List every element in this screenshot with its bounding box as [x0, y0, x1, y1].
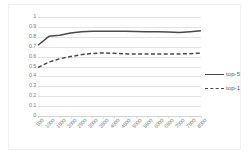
chart-container: 10.90.80.70.60.50.40.30.20.10 5001000150… [8, 4, 241, 150]
x-tick-label: 5000 [131, 118, 142, 129]
legend-label: top-1 [226, 85, 240, 91]
x-tick-label: 500 [35, 118, 44, 127]
y-tick-label: 0.6 [29, 54, 36, 59]
series-line-top-1 [38, 53, 201, 68]
legend-swatch-dashed [205, 85, 224, 92]
y-tick-label: 0.8 [29, 34, 36, 39]
x-tick-label: 1500 [55, 118, 66, 129]
series-line-top-5 [38, 31, 201, 45]
y-tick-label: 0.2 [29, 93, 36, 98]
x-tick-label: 5500 [142, 118, 153, 129]
x-tick-label: 8000 [196, 118, 207, 129]
y-tick-label: 0 [33, 113, 36, 118]
plot-area [38, 17, 201, 116]
y-tick-label: 0.9 [29, 24, 36, 29]
legend-item-top-1[interactable]: top-1 [205, 81, 249, 95]
y-tick-label: 0.5 [29, 64, 36, 69]
y-tick-label: 0.3 [29, 84, 36, 89]
chart-legend: top-5top-1 [205, 67, 249, 95]
legend-item-top-5[interactable]: top-5 [205, 67, 249, 81]
series-layer [38, 17, 201, 116]
y-axis: 10.90.80.70.60.50.40.30.20.10 [21, 17, 36, 116]
y-tick-label: 0.7 [29, 44, 36, 49]
y-tick-label: 1 [33, 14, 36, 19]
y-tick-label: 0.1 [29, 103, 36, 108]
legend-label: top-5 [226, 71, 240, 77]
x-tick-label: 1000 [44, 118, 55, 129]
x-tick-label: 4500 [120, 118, 131, 129]
y-tick-label: 0.4 [29, 74, 36, 79]
x-axis: 5001000150020002500300035004000450050005… [38, 118, 201, 154]
legend-swatch-solid [205, 71, 224, 78]
